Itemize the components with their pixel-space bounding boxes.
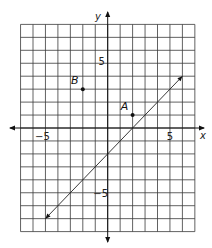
x-axis-left-arrow-icon [9, 126, 15, 131]
line-series [45, 76, 182, 218]
y-axis-label: y [94, 11, 102, 22]
y-tick-label-5: 5 [99, 56, 105, 67]
line-y-equals-x-minus-2 [45, 76, 182, 218]
axes [9, 11, 205, 243]
points: A B [71, 74, 135, 117]
point-a-marker [131, 113, 135, 117]
y-axis-up-arrow-icon [105, 11, 110, 17]
y-tick-label-neg5: −5 [93, 188, 108, 199]
x-tick-label-5: 5 [167, 131, 173, 142]
point-b-marker [81, 87, 85, 91]
y-axis-down-arrow-icon [105, 237, 110, 243]
point-a-label: A [120, 100, 129, 113]
point-b-label: B [71, 74, 79, 87]
x-axis-label: x [199, 130, 206, 141]
x-tick-label-neg5: −5 [35, 131, 50, 142]
coordinate-plane: x y −5 5 5 −5 A B [0, 0, 212, 248]
